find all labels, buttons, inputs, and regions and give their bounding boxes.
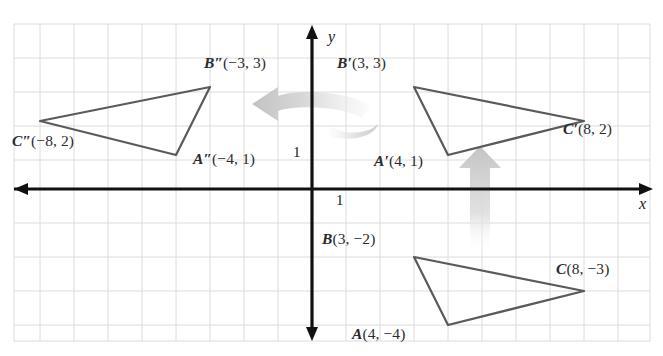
vertex-label-a: A(4, −4)	[352, 325, 405, 343]
vertex-letter-c-double-prime: C″	[12, 132, 31, 149]
translation-arrow	[459, 146, 501, 250]
vertex-coords-b-prime: (3, 3)	[352, 54, 386, 71]
geometry-canvas	[0, 0, 663, 356]
vertex-coords-c-double-prime: (−8, 2)	[31, 132, 74, 149]
vertex-letter-b-prime: B′	[337, 54, 352, 71]
tick-label-y-one: 1	[293, 144, 301, 161]
vertex-coords-a-prime: (4, 1)	[389, 152, 423, 169]
vertex-coords-c: (8, −3)	[566, 260, 609, 277]
vertex-letter-c-prime: C′	[563, 120, 578, 137]
vertex-label-c: C(8, −3)	[556, 260, 609, 278]
vertex-label-a-prime: A′(4, 1)	[374, 152, 423, 170]
vertex-letter-a-double-prime: A″	[193, 150, 212, 167]
vertex-label-c-double-prime: C″(−8, 2)	[12, 132, 74, 150]
grid-lines	[14, 24, 650, 341]
x-axis-label: x	[639, 195, 646, 213]
vertex-letter-a: A	[352, 325, 362, 342]
triangle-a-prime-b-prime-c-prime	[414, 87, 584, 155]
vertex-label-b-prime: B′(3, 3)	[337, 54, 386, 72]
axes	[14, 25, 653, 341]
vertex-label-b: B(3, −2)	[322, 230, 375, 248]
coordinate-plane-figure: y x 1 1 A(4, −4) B(3, −2) C(8, −3) A′(4,…	[0, 0, 663, 356]
vertex-letter-c: C	[556, 260, 566, 277]
vertex-letter-b-double-prime: B″	[204, 54, 223, 71]
vertex-coords-b-double-prime: (−3, 3)	[223, 54, 266, 71]
vertex-coords-b: (3, −2)	[332, 230, 375, 247]
vertex-label-c-prime: C′(8, 2)	[563, 120, 612, 138]
y-axis-label: y	[328, 28, 335, 46]
vertex-coords-a-double-prime: (−4, 1)	[212, 150, 255, 167]
vertex-coords-a: (4, −4)	[362, 325, 405, 342]
tick-label-x-one: 1	[336, 192, 344, 209]
vertex-letter-a-prime: A′	[374, 152, 389, 169]
vertex-coords-c-prime: (8, 2)	[578, 120, 612, 137]
vertex-label-a-double-prime: A″(−4, 1)	[193, 150, 255, 168]
vertex-letter-b: B	[322, 230, 332, 247]
vertex-label-b-double-prime: B″(−3, 3)	[204, 54, 266, 72]
rotation-arrow	[252, 87, 378, 139]
